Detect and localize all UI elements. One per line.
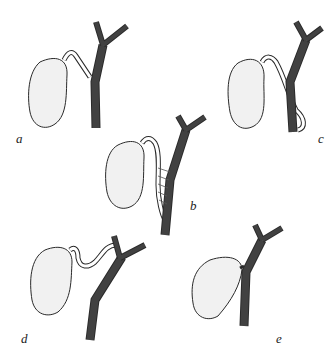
panel-a-illustration <box>29 22 127 128</box>
panel-b-illustration <box>106 116 205 235</box>
panel-label-e: e <box>276 331 282 347</box>
gallbladder-d <box>31 247 72 315</box>
panel-e-illustration <box>192 225 282 326</box>
panel-label-b: b <box>190 198 197 214</box>
gallbladder-b <box>106 141 144 208</box>
figure-canvas <box>0 0 335 355</box>
panel-label-c: c <box>318 131 324 147</box>
panel-label-d: d <box>21 331 28 347</box>
gallbladder-c <box>228 59 264 128</box>
panel-c-illustration <box>228 22 322 132</box>
gallbladder-e <box>192 257 242 318</box>
panel-d-illustration <box>31 236 145 340</box>
gallbladder-a <box>29 58 67 127</box>
panel-label-a: a <box>16 131 23 147</box>
